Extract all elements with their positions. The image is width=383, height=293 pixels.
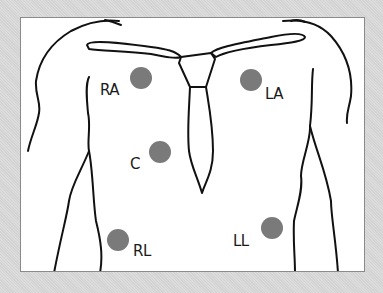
left-torso-inner bbox=[294, 69, 313, 272]
left-torso-outer bbox=[310, 126, 338, 272]
right-shoulder-line bbox=[283, 21, 351, 123]
right-torso-outer bbox=[54, 77, 89, 272]
manubrium bbox=[179, 53, 215, 87]
torso-outline-drawing bbox=[21, 18, 365, 272]
right-clavicle bbox=[87, 42, 181, 58]
diagram-panel bbox=[20, 17, 365, 272]
electrode-c bbox=[149, 141, 171, 163]
electrode-la bbox=[240, 69, 262, 91]
label-rl: RL bbox=[133, 244, 151, 259]
label-ra: RA bbox=[100, 83, 119, 98]
label-la: LA bbox=[265, 87, 283, 102]
label-ll: LL bbox=[233, 234, 249, 249]
sternum bbox=[188, 87, 213, 193]
electrode-ll bbox=[261, 217, 283, 239]
label-c: C bbox=[130, 157, 140, 172]
right-torso-inner bbox=[89, 151, 101, 272]
left-clavicle bbox=[211, 34, 305, 57]
electrode-ra bbox=[130, 67, 152, 89]
electrode-rl bbox=[107, 229, 129, 251]
